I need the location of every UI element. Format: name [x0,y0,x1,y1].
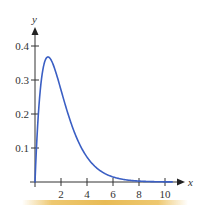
curve-line [35,57,172,182]
x-tick-label: 6 [110,188,116,200]
y-tick-label: 0.3 [15,74,29,86]
y-tick-label: 0.4 [15,40,29,52]
x-axis-arrow-icon [177,179,185,186]
y-tick-labels: 0.4 0.3 0.2 0.1 [15,40,29,154]
x-tick-label: 8 [136,188,142,200]
chart-plot: y x 0.4 0.3 0.2 0.1 2 4 6 8 10 [0,0,201,209]
x-tick-label: 4 [84,188,90,200]
y-tick-label: 0.1 [15,142,29,154]
x-tick-label: 2 [58,188,64,200]
y-tick-label: 0.2 [15,108,29,120]
x-axis-label: x [187,176,193,188]
x-tick-label: 10 [160,188,172,200]
decorative-accent-bar [22,200,188,205]
x-tick-labels: 2 4 6 8 10 [58,188,171,200]
y-axis-arrow-icon [32,27,39,35]
y-axis-label: y [31,13,37,25]
